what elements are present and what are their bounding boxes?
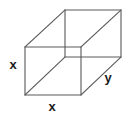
prism-diagram: x x y [0, 0, 129, 118]
connector-edge-bottom-right [81, 57, 121, 95]
label-height-edge-x: x [9, 57, 17, 72]
connector-edge-bottom-left [25, 57, 65, 95]
connector-edge-top-right [81, 10, 121, 47]
front-face-edges [25, 47, 81, 95]
prism-figure-container: x x y [0, 0, 129, 118]
label-front-bottom-edge-x: x [48, 99, 56, 114]
connector-edge-top-left [25, 10, 65, 47]
label-depth-edge-y: y [104, 70, 112, 85]
